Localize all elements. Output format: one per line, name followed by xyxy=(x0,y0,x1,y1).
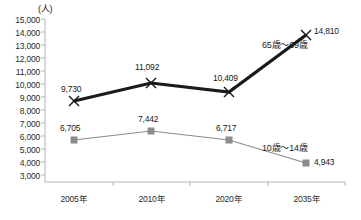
data-label-upper: 10,409 xyxy=(213,73,238,83)
line-chart: (人) 15,000 14,000 13,000 12,000 11,000 1… xyxy=(0,0,361,220)
series-legend-label-lower: 10歳～14歳 xyxy=(262,141,308,154)
data-label-lower: 6,717 xyxy=(216,123,236,133)
data-point-marker xyxy=(148,128,155,135)
data-point-marker xyxy=(226,137,233,144)
series-legend-label-upper: 65歳～69歳 xyxy=(262,38,308,51)
data-label-lower: 6,705 xyxy=(60,123,80,133)
x-axis-ticks xyxy=(113,182,345,186)
data-label-upper: 11,092 xyxy=(135,62,159,72)
data-label-lower: 7,442 xyxy=(138,114,158,124)
y-axis-ticks xyxy=(41,19,45,175)
data-label-upper: 9,730 xyxy=(61,84,81,94)
data-point-marker xyxy=(71,137,78,144)
chart-canvas xyxy=(0,0,361,220)
data-label-upper: 14,810 xyxy=(314,26,339,36)
data-label-lower: 4,943 xyxy=(314,157,334,167)
data-point-marker xyxy=(303,160,310,167)
